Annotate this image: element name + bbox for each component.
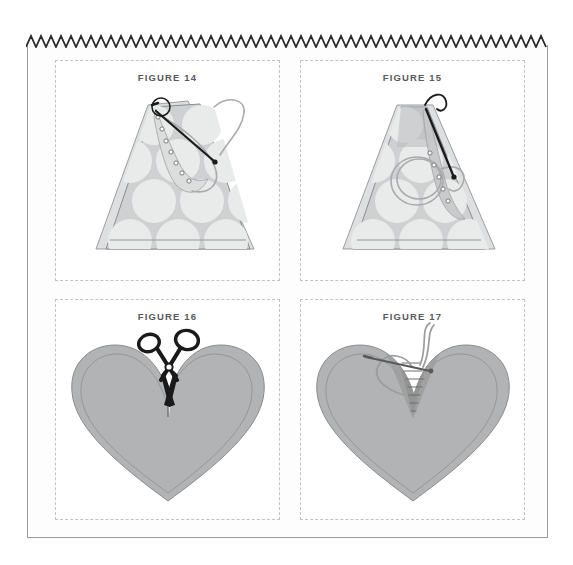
figure-panel-17[interactable]: FIGURE 17 bbox=[300, 299, 525, 520]
figure-caption-16: FIGURE 16 bbox=[138, 312, 197, 322]
figure-grid: FIGURE 14 bbox=[28, 45, 549, 538]
figure-caption-14: FIGURE 14 bbox=[138, 73, 197, 83]
figure-caption-17: FIGURE 17 bbox=[383, 312, 442, 322]
figure-panel-16[interactable]: FIGURE 16 bbox=[55, 299, 280, 520]
figure-caption-15: FIGURE 15 bbox=[383, 73, 442, 83]
figure-15-artwork bbox=[301, 83, 524, 281]
figure-panel-15[interactable]: FIGURE 15 bbox=[300, 60, 525, 281]
instruction-page-sheet: FIGURE 14 bbox=[27, 45, 548, 538]
figure-panel-14[interactable]: FIGURE 14 bbox=[55, 60, 280, 281]
figure-17-artwork bbox=[301, 322, 524, 520]
figure-16-artwork bbox=[56, 322, 279, 520]
figure-14-artwork bbox=[56, 83, 279, 281]
